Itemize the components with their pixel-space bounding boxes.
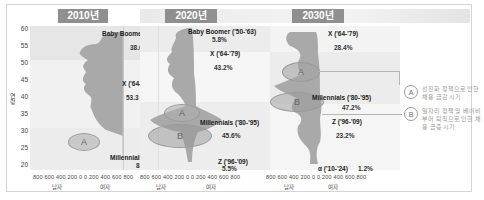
legend-item-b: B 일자리 정책 및 베이비부머 퇴직으로 인한 채용 급증 시기 xyxy=(404,107,484,131)
generation-share: 47.2% xyxy=(342,104,360,111)
pyramid-shape xyxy=(140,26,270,170)
legend-marker-b: B xyxy=(404,107,418,121)
legend-text-b: 일자리 정책 및 베이비부머 퇴직으로 인한 채용 급증 시기 xyxy=(422,107,484,131)
pyramid-plot: A Baby Boomer ('50-'63) 38.6% X ('64-'79… xyxy=(30,26,140,170)
legend-text-a: 선진화 정책으로 인한 채용 급감 시기 xyxy=(422,85,484,101)
y-tick: 60 xyxy=(16,25,28,32)
leader-line-b xyxy=(322,114,402,115)
generation-label: X ('64-'79) xyxy=(210,50,240,57)
y-tick: 30 xyxy=(16,127,28,134)
generation-label: Z ('96-'09) xyxy=(218,158,248,165)
x-label-male: 남자 xyxy=(284,183,294,191)
generation-label: Millennials ('80-'95) xyxy=(200,119,259,126)
panel-title: 2030년 xyxy=(292,9,344,23)
generation-label: Millennials ('80-'95) xyxy=(312,94,371,101)
y-tick: 35 xyxy=(16,110,28,117)
leader-line-a xyxy=(318,71,400,72)
x-ticks: 800 600 400 200 0 0 200 400 600 800 xyxy=(140,174,240,180)
marker-a: A xyxy=(282,62,320,82)
x-label-female: 여자 xyxy=(206,183,216,191)
generation-label: α ('10-'24) xyxy=(318,165,348,172)
x-label-female: 여자 xyxy=(328,183,338,191)
generation-share: 1.2% xyxy=(358,165,373,172)
generation-share: 5.5% xyxy=(222,165,237,172)
y-tick: 25 xyxy=(16,144,28,151)
y-tick: 55 xyxy=(16,42,28,49)
x-ticks: 800 600 400 200 0 0 200 400 600 800 xyxy=(266,174,366,180)
generation-share: 23.2% xyxy=(336,132,354,139)
generation-label: Baby Boomer ('50-'63) xyxy=(188,28,256,35)
panel-title: 2020년 xyxy=(165,9,217,23)
x-label-male: 남자 xyxy=(156,183,166,191)
legend-marker-a: A xyxy=(404,85,418,99)
generation-label: X ('64-'79) xyxy=(328,30,358,37)
panel-2010: 2010년 A Baby Boomer ('50-'63) 38.6% X ('… xyxy=(30,0,140,200)
y-tick: 45 xyxy=(16,76,28,83)
legend-item-a: A 선진화 정책으로 인한 채용 급감 시기 xyxy=(404,85,484,101)
generation-share: 5.8% xyxy=(212,36,227,43)
y-axis: 연령 60 55 50 45 40 35 30 25 20 xyxy=(0,0,30,200)
x-label-female: 여자 xyxy=(100,183,110,191)
marker-b: B xyxy=(148,124,212,148)
x-label-male: 남자 xyxy=(52,183,62,191)
marker-a: A xyxy=(164,104,200,122)
panel-2020: 2020년 A B Baby Boomer ('50-'63) 5.8% X (… xyxy=(140,0,270,200)
x-ticks: 800 600 400 200 0 0 200 400 600 800 xyxy=(33,174,133,180)
pyramid-plot: A B X ('64-'79) 28.4% Millennials ('80-'… xyxy=(270,26,400,170)
generation-share: 45.6% xyxy=(222,132,240,139)
panel-title: 2010년 xyxy=(58,9,108,23)
y-tick: 40 xyxy=(16,93,28,100)
marker-a: A xyxy=(68,133,100,151)
generation-share: 43.2% xyxy=(214,64,232,71)
pyramid-plot: A B Baby Boomer ('50-'63) 5.8% X ('64-'7… xyxy=(140,26,270,170)
y-tick: 20 xyxy=(16,161,28,168)
leader-line-a xyxy=(399,71,400,85)
y-tick: 50 xyxy=(16,59,28,66)
generation-label: Z ('96-'09) xyxy=(332,118,362,125)
generation-share: 28.4% xyxy=(334,44,352,51)
